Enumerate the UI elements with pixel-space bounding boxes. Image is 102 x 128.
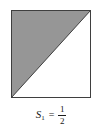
unit-square — [11, 10, 91, 98]
fraction-numerator: 1 — [59, 105, 66, 115]
square-graphic — [11, 10, 91, 98]
caption-symbol-subscript: 1 — [41, 114, 45, 122]
caption-equals-sign: = — [48, 110, 56, 120]
figure-root: S1 = 1 2 — [0, 0, 102, 128]
caption-equation: S1 = 1 2 — [36, 104, 67, 125]
fraction-denominator: 2 — [59, 116, 66, 126]
figure-caption: S1 = 1 2 — [0, 104, 102, 125]
caption-symbol: S1 — [36, 109, 45, 120]
caption-fraction: 1 2 — [58, 105, 66, 126]
